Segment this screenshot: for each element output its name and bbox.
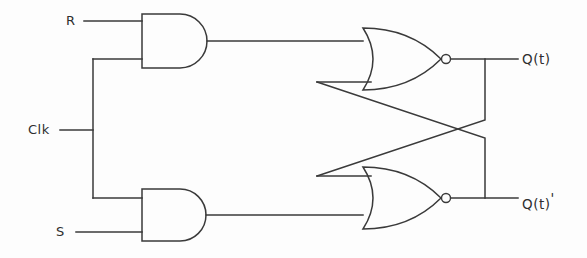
nor-gate-top [363,28,451,90]
nor-gate-bottom-body [363,167,441,229]
nor-gate-bottom [363,167,451,229]
and-gate-top-body [142,14,207,68]
nor-gate-bottom-inversion-bubble [442,194,451,203]
and-gate-top [142,14,207,68]
output-label-qn-text: Q(t) [522,196,550,212]
and-gate-bottom [142,189,206,241]
and-gate-bottom-body [142,189,206,241]
output-label-qn: Q(t)' [522,190,554,212]
input-label-clk: Clk [28,122,50,137]
wire-feedback-q-to-nor-bottom [317,59,485,176]
output-label-qn-prime: ' [550,190,554,206]
wire-feedback-qn-to-nor-top [317,82,485,198]
nor-gate-top-inversion-bubble [442,55,451,64]
input-label-s: S [56,224,65,239]
circuit-diagram-canvas: R Clk S Q(t) Q(t)' [0,0,587,258]
output-label-q: Q(t) [522,51,550,67]
schematic-svg [0,0,587,258]
input-label-r: R [66,13,76,28]
nor-gate-top-body [363,28,441,90]
output-label-q-text: Q(t) [522,51,550,67]
